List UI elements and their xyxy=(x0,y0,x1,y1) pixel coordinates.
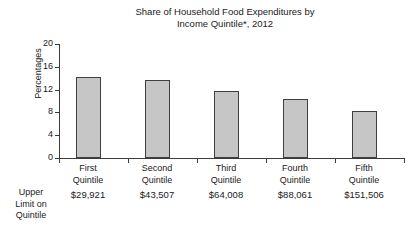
row-header-line-3: Quintile xyxy=(2,210,60,222)
bar-first-quintile xyxy=(76,77,101,159)
y-tick-label-8: 8 xyxy=(48,106,53,117)
y-axis-title: Percentages xyxy=(33,34,44,114)
chart-title-line-1: Share of Household Food Expenditures by xyxy=(60,6,390,18)
y-tick-label-20: 20 xyxy=(43,38,53,49)
upper-limit-value-fifth: $151,506 xyxy=(321,189,407,201)
bar-third-quintile xyxy=(214,91,239,158)
y-tick-label-16: 16 xyxy=(43,61,53,72)
category-label-fifth-line-1: Fifth xyxy=(321,163,407,175)
category-label-fifth: Fifth Quintile xyxy=(321,163,407,186)
y-tick-label-4: 4 xyxy=(48,129,53,140)
category-label-fifth-line-2: Quintile xyxy=(321,175,407,187)
bar-fifth-quintile xyxy=(352,111,377,158)
quintile-table: Upper Limit on Quintile First Quintile S… xyxy=(0,163,418,229)
y-tick-label-12: 12 xyxy=(43,84,53,95)
bar-fourth-quintile xyxy=(283,99,308,158)
y-axis-line xyxy=(59,44,60,159)
plot-area: 0 4 8 12 16 20 xyxy=(59,44,405,158)
chart-title-line-2: Income Quintile*, 2012 xyxy=(60,18,390,30)
chart-figure: Share of Household Food Expenditures by … xyxy=(0,0,418,232)
y-tick-label-0: 0 xyxy=(48,152,53,163)
chart-title: Share of Household Food Expenditures by … xyxy=(60,6,390,30)
bar-second-quintile xyxy=(145,80,170,158)
x-axis-line xyxy=(59,158,405,159)
